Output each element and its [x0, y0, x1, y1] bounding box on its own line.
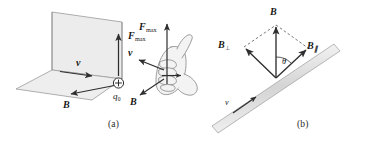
force-max-label-hand: Fmax: [139, 22, 156, 32]
field-label-hand: B: [130, 97, 137, 107]
angle-label: θ: [282, 57, 286, 66]
physics-figure: Fmax v B q0 Fmax v B (a): [0, 0, 371, 145]
panel-b: B B⊥ B∥ θ v (b): [200, 0, 371, 145]
caption-b: (b): [297, 120, 309, 130]
velocity-label-b: v: [225, 99, 229, 107]
vertical-plane: [52, 12, 122, 79]
charge-label: q0: [113, 92, 120, 101]
plus-charge-icon: [113, 78, 123, 88]
field-label-b: B: [270, 7, 277, 17]
field-perpendicular-vector: [246, 49, 276, 78]
field-parallel-label: B∥: [307, 41, 318, 51]
velocity-label: v: [76, 58, 80, 68]
force-max-label: Fmax: [128, 31, 145, 41]
field-perpendicular-label: B⊥: [218, 40, 230, 50]
field-label: B: [63, 100, 70, 110]
panel-a: Fmax v B q0 Fmax v B (a): [0, 0, 200, 145]
panel-b-graphics: [200, 0, 371, 145]
caption-a: (a): [108, 120, 119, 130]
panel-a-graphics: [0, 0, 200, 145]
right-hand-icon: [156, 35, 197, 95]
velocity-label-hand: v: [128, 48, 132, 58]
